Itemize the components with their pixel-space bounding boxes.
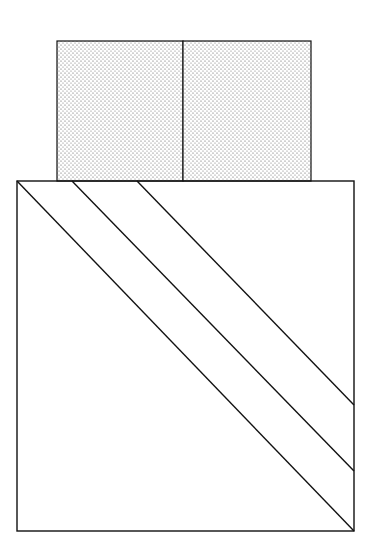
top-block (57, 41, 311, 181)
diagonal-line-1 (17, 181, 354, 531)
top-left-stippled-square (57, 41, 183, 181)
diagonal-line-2 (72, 181, 354, 471)
diagonal-lines (17, 181, 354, 531)
diagram-canvas (0, 0, 370, 551)
top-right-stippled-square (183, 41, 311, 181)
diagonal-line-3 (137, 181, 354, 405)
